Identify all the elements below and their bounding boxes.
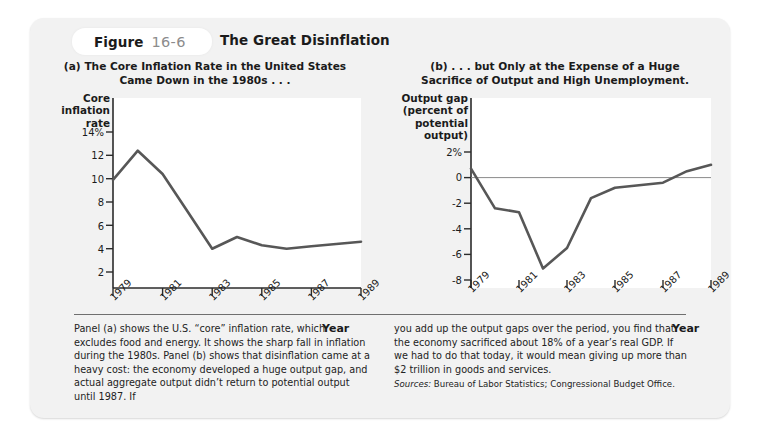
caption-right-column: you add up the output gaps over the peri…: [394, 322, 690, 404]
panel-a-y-axis-label-line1: Core: [36, 92, 110, 104]
panel-b-ytick-0: 0: [428, 172, 462, 183]
panel-b-y-axis-label-line1: Output gap: [376, 92, 468, 104]
panel-b-ytick-neg4: -4: [428, 224, 462, 235]
sources-text: Bureau of Labor Statistics; Congressiona…: [434, 379, 675, 389]
panel-a-plot: Core inflation rate 14% 12 10 8 6 4 2: [30, 90, 380, 310]
panel-a-ytick-8: 8: [70, 197, 104, 208]
figure-container: Figure 16-6 The Great Disinflation (a) T…: [30, 18, 730, 418]
panel-b-ytick-neg6: -6: [428, 249, 462, 260]
caption-block: Panel (a) shows the U.S. “core” inflatio…: [74, 322, 690, 404]
figure-title: The Great Disinflation: [220, 32, 390, 48]
panel-b-ytick-neg2: -2: [428, 198, 462, 209]
panel-a: (a) The Core Inflation Rate in the Unite…: [30, 60, 380, 310]
panel-a-ytick-12: 12: [70, 150, 104, 161]
panel-a-title-line1: (a) The Core Inflation Rate in the Unite…: [30, 60, 380, 74]
panel-b-y-axis-label-line3: potential: [376, 117, 468, 129]
panel-a-y-axis-label-line2: inflation: [36, 104, 110, 116]
panel-b-ytick-neg8: -8: [428, 275, 462, 286]
panel-b-plot: Output gap (percent of potential output)…: [380, 90, 730, 310]
panel-b-y-axis-label-line4: output): [376, 129, 468, 141]
charts-row: (a) The Core Inflation Rate in the Unite…: [30, 60, 730, 310]
panel-a-y-ticks: [106, 132, 113, 272]
caption-sources: Sources: Bureau of Labor Statistics; Con…: [394, 378, 690, 392]
panel-b-title-line2: Sacrifice of Output and High Unemploymen…: [380, 74, 730, 88]
panel-b-title-line1: (b) . . . but Only at the Expense of a H…: [380, 60, 730, 74]
panel-b-title: (b) . . . but Only at the Expense of a H…: [380, 60, 730, 87]
panel-a-ytick-14: 14%: [70, 127, 104, 138]
panel-b-y-ticks: [464, 152, 471, 280]
panel-a-ytick-10: 10: [70, 174, 104, 185]
figure-label: Figure: [94, 34, 144, 50]
panel-a-y-axis-label: Core inflation rate: [36, 92, 110, 129]
caption-divider: [74, 314, 686, 315]
panel-a-plot-bg: [113, 98, 361, 288]
panel-a-ytick-4: 4: [70, 244, 104, 255]
sources-label: Sources:: [394, 379, 431, 389]
panel-a-ytick-2: 2: [70, 267, 104, 278]
panel-b-y-axis-label: Output gap (percent of potential output): [376, 92, 468, 142]
panel-b-y-axis-label-line2: (percent of: [376, 104, 468, 116]
panel-b-ytick-2: 2%: [428, 147, 462, 158]
panel-b: (b) . . . but Only at the Expense of a H…: [380, 60, 730, 310]
caption-left-text: Panel (a) shows the U.S. “core” inflatio…: [74, 322, 370, 404]
figure-header: Figure 16-6 The Great Disinflation: [30, 28, 730, 58]
panel-a-title-line2: Came Down in the 1980s . . .: [30, 74, 380, 88]
panel-a-title: (a) The Core Inflation Rate in the Unite…: [30, 60, 380, 87]
panel-b-plot-bg: [471, 98, 711, 288]
figure-number-tab: Figure 16-6: [72, 28, 212, 55]
figure-page: Figure 16-6 The Great Disinflation (a) T…: [0, 0, 760, 435]
figure-number: 16-6: [152, 34, 186, 50]
caption-right-text: you add up the output gaps over the peri…: [394, 322, 690, 376]
caption-left-column: Panel (a) shows the U.S. “core” inflatio…: [74, 322, 370, 404]
panel-a-ytick-6: 6: [70, 221, 104, 232]
